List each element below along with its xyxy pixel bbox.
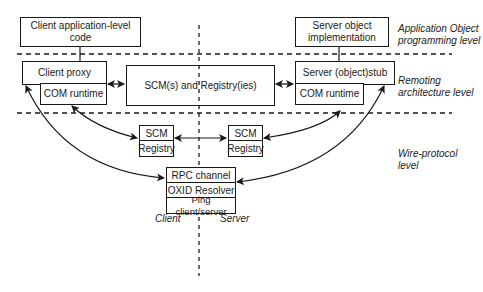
server-impl-label-2: implementation — [308, 32, 376, 44]
scm-registries-label: SCM(s) and Registry(ies) — [144, 80, 256, 92]
client-application-code-box: Client application-level code — [20, 17, 141, 47]
right-registry-box: Registry — [228, 140, 263, 157]
right-scm-label: SCM — [234, 128, 256, 140]
application-level-label: Application Object programming level — [398, 23, 480, 47]
client-com-runtime-label: COM runtime — [44, 88, 103, 100]
server-stub-label: Server (object)stub — [303, 67, 387, 79]
right-registry-label: Registry — [227, 143, 264, 155]
server-com-runtime-label: COM runtime — [300, 88, 359, 100]
rpc-channel-label: RPC channel — [172, 170, 231, 182]
server-impl-label-1: Server object — [313, 20, 372, 32]
client-com-runtime-box: COM runtime — [40, 83, 107, 105]
client-proxy-box: Client proxy — [22, 61, 107, 85]
wire-level-line-1: Wire-protocol — [398, 148, 457, 160]
wire-level-line-2: level — [398, 160, 457, 172]
left-registry-box: Registry — [139, 140, 174, 157]
client-application-code-label: Client application-level code — [21, 20, 140, 44]
ping-client-server-box: Ping client/server — [166, 197, 236, 214]
server-object-implementation-box: Server object implementation — [295, 17, 389, 47]
remoting-level-line-1: Remoting — [398, 75, 474, 87]
server-com-runtime-box: COM runtime — [295, 83, 364, 105]
left-registry-label: Registry — [138, 143, 175, 155]
scm-registries-box: SCM(s) and Registry(ies) — [126, 65, 275, 106]
client-proxy-label: Client proxy — [38, 67, 91, 79]
wire-protocol-level-label: Wire-protocol level — [398, 148, 457, 172]
server-side-label: Server — [220, 213, 249, 225]
remoting-level-label: Remoting architecture level — [398, 75, 474, 99]
server-stub-box: Server (object)stub — [295, 61, 395, 85]
client-side-label: Client — [155, 213, 181, 225]
remoting-level-line-2: architecture level — [398, 87, 474, 99]
left-scm-label: SCM — [145, 128, 167, 140]
application-level-line-2: programming level — [398, 35, 480, 47]
server-com-scm-arrow — [264, 111, 340, 138]
client-com-scm-arrow — [72, 106, 137, 138]
application-level-line-1: Application Object — [398, 23, 480, 35]
